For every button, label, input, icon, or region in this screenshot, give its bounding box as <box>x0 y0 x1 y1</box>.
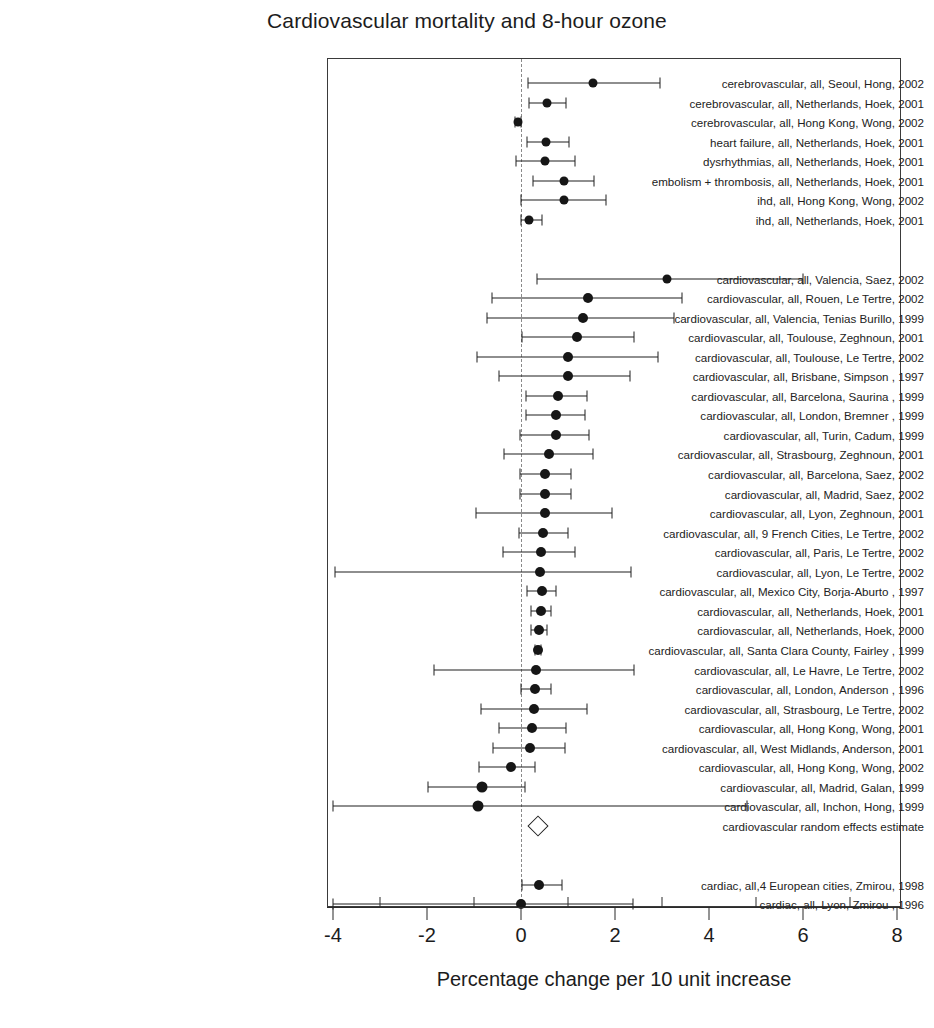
confidence-interval-cap-high <box>565 97 566 108</box>
confidence-interval-cap-high <box>556 586 557 597</box>
point-estimate-marker <box>473 801 484 812</box>
confidence-interval-cap-high <box>535 762 536 773</box>
study-label: cardiovascular, all, Paris, Le Tertre, 2… <box>614 546 934 559</box>
point-estimate-marker <box>578 313 588 323</box>
study-label: heart failure, all, Netherlands, Hoek, 2… <box>614 135 934 148</box>
confidence-interval-line <box>335 571 630 572</box>
confidence-interval-cap-low <box>491 293 492 304</box>
confidence-interval-cap-low <box>525 390 526 401</box>
confidence-interval-cap-high <box>660 78 661 89</box>
confidence-interval-cap-high <box>658 351 659 362</box>
confidence-interval-cap-high <box>571 469 572 480</box>
study-label: cardiovascular, all, Strasbourg, Le Tert… <box>614 702 934 715</box>
confidence-interval-cap-high <box>803 273 804 284</box>
study-label: cardiovascular, all, Lyon, Le Tertre, 20… <box>614 565 934 578</box>
x-tick-major <box>615 907 616 920</box>
confidence-interval-cap-low <box>520 469 521 480</box>
confidence-interval-cap-low <box>527 586 528 597</box>
confidence-interval-cap-low <box>531 605 532 616</box>
study-label: cardiovascular, all, Barcelona, Saez, 20… <box>614 468 934 481</box>
point-estimate-marker <box>535 567 545 577</box>
confidence-interval-cap-high <box>630 566 631 577</box>
confidence-interval-cap-high <box>565 742 566 753</box>
study-label: cardiovascular, all, Toulouse, Le Tertre… <box>614 350 934 363</box>
confidence-interval-cap-high <box>630 371 631 382</box>
point-estimate-marker <box>533 645 543 655</box>
study-label: cardiovascular, all, Hong Kong, Wong, 20… <box>614 761 934 774</box>
confidence-interval-cap-high <box>524 781 525 792</box>
point-estimate-marker <box>534 625 544 635</box>
point-estimate-marker <box>476 781 487 792</box>
point-estimate-marker <box>534 880 544 890</box>
x-tick-major <box>521 907 522 920</box>
study-label: cerebrovascular, all, Hong Kong, Wong, 2… <box>614 116 934 129</box>
confidence-interval-cap-low <box>486 312 487 323</box>
confidence-interval-cap-low <box>532 175 533 186</box>
study-label: cardiovascular, all, Toulouse, Zeghnoun,… <box>614 331 934 344</box>
confidence-interval-cap-high <box>562 879 563 890</box>
study-label: embolism + thrombosis, all, Netherlands,… <box>614 174 934 187</box>
study-label: cardiovascular, all, Le Havre, Le Tertre… <box>614 663 934 676</box>
point-estimate-marker <box>536 547 546 557</box>
point-estimate-marker <box>525 743 535 753</box>
study-label: cardiovascular, all, London, Anderson , … <box>614 683 934 696</box>
point-estimate-marker <box>551 410 561 420</box>
point-estimate-marker <box>514 118 523 127</box>
point-estimate-marker <box>583 293 593 303</box>
point-estimate-marker <box>662 274 671 283</box>
x-tick-major <box>709 907 710 920</box>
forest-plot-figure: Cardiovascular mortality and 8-hour ozon… <box>0 0 934 1028</box>
x-tick-major <box>427 907 428 920</box>
confidence-interval-cap-low <box>521 195 522 206</box>
study-label: cardiovascular, all, Mexico City, Borja-… <box>614 585 934 598</box>
x-tick-label: 2 <box>609 924 620 947</box>
confidence-interval-cap-low <box>529 97 530 108</box>
page-title: Cardiovascular mortality and 8-hour ozon… <box>0 9 934 33</box>
point-estimate-marker <box>563 371 573 381</box>
confidence-interval-cap-high <box>586 703 587 714</box>
confidence-interval-cap-low <box>519 429 520 440</box>
study-label: cardiovascular, all, 9 French Cities, Le… <box>614 526 934 539</box>
study-label: cerebrovascular, all, Seoul, Hong, 2002 <box>614 77 934 90</box>
confidence-interval-cap-low <box>492 742 493 753</box>
point-estimate-marker <box>530 684 540 694</box>
confidence-interval-cap-low <box>515 156 516 167</box>
point-estimate-marker <box>538 528 548 538</box>
point-estimate-marker <box>506 762 516 772</box>
confidence-interval-cap-high <box>592 449 593 460</box>
confidence-interval-cap-high <box>633 332 634 343</box>
confidence-interval-cap-low <box>477 351 478 362</box>
point-estimate-marker <box>536 606 546 616</box>
point-estimate-marker <box>560 196 569 205</box>
x-tick-minor <box>850 897 851 907</box>
x-tick-minor <box>756 897 757 907</box>
study-label: cardiovascular, all, Santa Clara County,… <box>614 643 934 656</box>
study-label: cardiovascular, all, Lyon, Zeghnoun, 200… <box>614 507 934 520</box>
confidence-interval-cap-high <box>542 214 543 225</box>
study-label: cardiovascular, all, Madrid, Saez, 2002 <box>614 487 934 500</box>
confidence-interval-cap-high <box>589 429 590 440</box>
point-estimate-marker <box>572 332 582 342</box>
study-label: ihd, all, Hong Kong, Wong, 2002 <box>614 194 934 207</box>
confidence-interval-cap-high <box>546 625 547 636</box>
x-tick-major <box>333 907 334 920</box>
x-tick-major <box>803 907 804 920</box>
confidence-interval-cap-high <box>746 801 747 812</box>
confidence-interval-cap-high <box>584 410 585 421</box>
confidence-interval-cap-low <box>525 410 526 421</box>
point-estimate-marker <box>531 665 541 675</box>
point-estimate-marker <box>553 391 563 401</box>
study-label: cardiovascular, all, London, Bremner , 1… <box>614 409 934 422</box>
x-tick-minor <box>474 897 475 907</box>
study-label: cardiac, all,4 European cities, Zmirou, … <box>614 878 934 891</box>
x-axis-title: Percentage change per 10 unit increase <box>327 968 901 991</box>
x-tick-label: -4 <box>324 924 342 947</box>
confidence-interval-cap-low <box>537 273 538 284</box>
confidence-interval-cap-high <box>568 136 569 147</box>
confidence-interval-cap-high <box>633 664 634 675</box>
confidence-interval-cap-low <box>476 508 477 519</box>
point-estimate-marker <box>529 704 539 714</box>
confidence-interval-cap-low <box>333 801 334 812</box>
confidence-interval-cap-low <box>521 879 522 890</box>
x-tick-minor <box>662 897 663 907</box>
